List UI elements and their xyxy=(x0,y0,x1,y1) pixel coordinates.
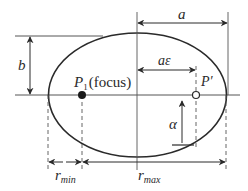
other-focus-point xyxy=(193,92,200,99)
focus-letter: P xyxy=(73,74,83,90)
focal-distance-label: aε xyxy=(158,53,171,68)
focus-point xyxy=(78,91,86,99)
ellipse-diagram: b a aε P1(focus) P′ α rmin rmax xyxy=(0,0,248,191)
ellipse-svg: b a aε P1(focus) P′ α rmin rmax xyxy=(0,0,248,191)
angle-label: α xyxy=(169,116,178,132)
semi-major-label: a xyxy=(178,6,186,22)
r-min-label: rmin xyxy=(55,167,76,185)
focus-label: P1(focus) xyxy=(73,74,131,92)
focus-note: (focus) xyxy=(89,74,131,91)
r-max-sub: max xyxy=(144,174,161,185)
other-focus-label: P′ xyxy=(200,74,214,89)
semi-minor-label: b xyxy=(18,57,26,73)
r-min-sub: min xyxy=(61,174,76,185)
focus-subscript: 1 xyxy=(83,82,88,92)
r-max-label: rmax xyxy=(138,167,161,185)
